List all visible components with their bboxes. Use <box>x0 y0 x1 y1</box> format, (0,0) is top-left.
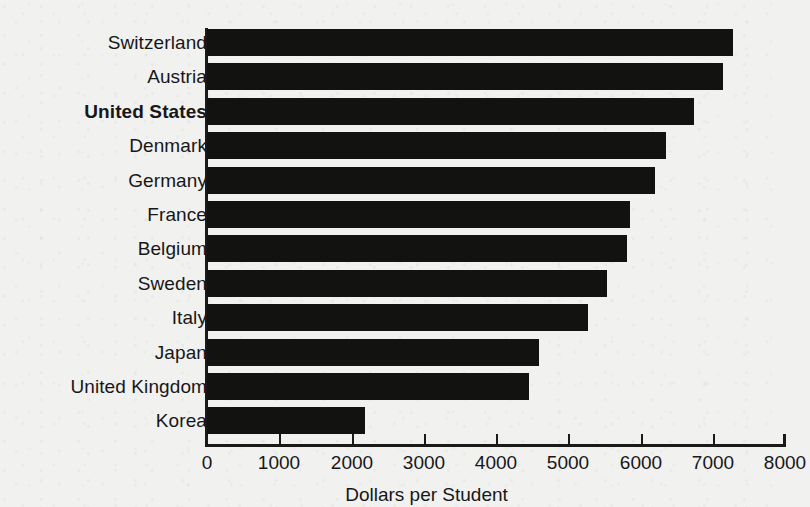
category-label-belgium: Belgium <box>40 235 207 262</box>
x-axis-title: Dollars per Student <box>40 484 810 506</box>
x-axis-tick-label: 0 <box>202 452 213 474</box>
bar <box>207 407 365 434</box>
x-axis-tick-label: 4000 <box>475 452 517 474</box>
bar <box>207 339 539 366</box>
bar <box>207 373 529 400</box>
bar-row <box>207 304 785 331</box>
category-label-italy: Italy <box>40 304 207 331</box>
x-axis-tick-label: 8000 <box>764 452 806 474</box>
bar-row <box>207 235 785 262</box>
bar-row <box>207 29 785 56</box>
bar <box>207 167 655 194</box>
x-axis-tick-label: 5000 <box>547 452 589 474</box>
category-label-united-states: United States <box>40 98 207 125</box>
x-axis-tick-label: 3000 <box>403 452 445 474</box>
category-label-united-kingdom: United Kingdom <box>40 373 207 400</box>
x-axis-tick-label: 6000 <box>620 452 662 474</box>
bar-row <box>207 201 785 228</box>
x-axis-tick-label: 2000 <box>331 452 373 474</box>
x-axis-tick <box>352 434 354 445</box>
x-axis-right-cap <box>783 434 786 447</box>
category-label-germany: Germany <box>40 167 207 194</box>
category-label-japan: Japan <box>40 339 207 366</box>
bar <box>207 132 666 159</box>
category-label-denmark: Denmark <box>40 132 207 159</box>
x-axis-tick <box>424 434 426 445</box>
category-label-korea: Korea <box>40 407 207 434</box>
bar-row <box>207 63 785 90</box>
category-label-sweden: Sweden <box>40 270 207 297</box>
bar <box>207 270 607 297</box>
category-label-austria: Austria <box>40 63 207 90</box>
bar <box>207 29 733 56</box>
x-axis-tick <box>568 434 570 445</box>
bar <box>207 235 627 262</box>
category-label-switzerland: Switzerland <box>40 29 207 56</box>
bar-row <box>207 373 785 400</box>
category-label-france: France <box>40 201 207 228</box>
x-axis-tick <box>279 434 281 445</box>
x-axis-tick <box>496 434 498 445</box>
bar <box>207 98 694 125</box>
x-axis-tick <box>713 434 715 445</box>
bar <box>207 304 588 331</box>
bar-row <box>207 132 785 159</box>
bar-row <box>207 407 785 434</box>
x-axis-tick-label: 1000 <box>258 452 300 474</box>
bar-row <box>207 98 785 125</box>
bar-row <box>207 167 785 194</box>
x-axis-tick <box>641 434 643 445</box>
bar <box>207 201 630 228</box>
bar-row <box>207 270 785 297</box>
x-axis-tick-label: 7000 <box>692 452 734 474</box>
horizontal-bar-chart: SwitzerlandAustriaUnited StatesDenmarkGe… <box>40 16 733 491</box>
bar-row <box>207 339 785 366</box>
bar <box>207 63 723 90</box>
